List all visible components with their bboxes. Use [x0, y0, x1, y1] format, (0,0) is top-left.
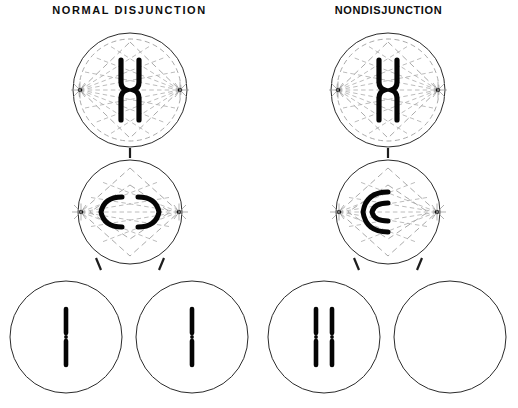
panel-title-nondisjunction: NONDISJUNCTION — [259, 4, 518, 16]
panel-title-normal-disjunction: NORMAL DISJUNCTION — [0, 4, 259, 16]
normal-anaphase-cell — [72, 160, 188, 264]
chromosome-rod — [190, 309, 194, 365]
normal-metaphase-cell — [71, 33, 189, 147]
stage-connector-left — [96, 258, 101, 270]
chromosome-rod — [314, 309, 318, 365]
cell-membrane — [268, 281, 380, 393]
normal-daughter-left — [10, 281, 122, 393]
normal-daughter-right — [136, 281, 248, 393]
stage-connector-right — [159, 258, 164, 270]
nondisjunction-anaphase-cell — [330, 160, 446, 264]
nondisjunction-metaphase-cell — [329, 33, 447, 147]
chromosome-rod — [64, 309, 68, 365]
nondisjunction-daughter-right — [394, 281, 506, 393]
stage-connector-right — [417, 258, 422, 270]
diagram-canvas — [0, 0, 518, 408]
chromosome-rod — [330, 309, 334, 365]
nondisjunction-daughter-left — [268, 281, 380, 393]
cell-membrane — [394, 281, 506, 393]
nondisjunction-diagram: NORMAL DISJUNCTION NONDISJUNCTION — [0, 0, 518, 408]
stage-connector-left — [354, 258, 359, 270]
